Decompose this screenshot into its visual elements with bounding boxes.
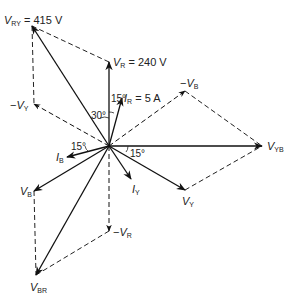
angle-label: 15°	[111, 94, 126, 104]
label-i-b: IB	[56, 152, 64, 164]
label-v-r: VR = 240 V	[113, 57, 167, 69]
label-v-b: VB	[20, 186, 32, 198]
construction-line	[34, 191, 36, 275]
label-minus-v-y: −VY	[10, 100, 28, 112]
label-v-y: VY	[182, 196, 194, 208]
label-v-br: VBR	[30, 282, 47, 294]
phasor-diagram	[0, 0, 297, 304]
phasor-i-y	[109, 146, 131, 179]
construction-line	[36, 231, 109, 275]
phasor-v-y	[109, 146, 185, 190]
angle-label: 30°	[91, 111, 106, 121]
label-minus-v-r: −VR	[113, 227, 132, 239]
phasor-v-br	[36, 146, 109, 275]
construction-line	[32, 26, 34, 104]
angle-arc-15-ir	[109, 112, 114, 113]
angle-label: 15°	[71, 142, 86, 152]
label-v-yb: VYB	[267, 141, 284, 153]
angle-label: 15°	[130, 149, 145, 159]
phasor-i-r	[109, 98, 122, 146]
label-v-ry: VRY = 415 V	[4, 15, 62, 27]
label-i-r: IR = 5 A	[124, 93, 161, 105]
angle-arc-15-iy	[126, 146, 128, 152]
construction-line	[185, 91, 262, 146]
label-minus-v-b: −VB	[180, 78, 198, 90]
label-i-y: IY	[132, 184, 140, 196]
phasor-v-b	[34, 146, 109, 191]
construction-line	[185, 146, 262, 190]
